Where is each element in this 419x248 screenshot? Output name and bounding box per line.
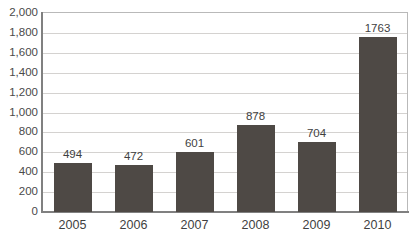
bar-value-label: 472: [103, 151, 164, 163]
x-axis-tick-label: 2006: [103, 218, 164, 233]
y-axis-labels: 2,0001,8001,6001,4001,2001,0008006004002…: [0, 0, 38, 248]
y-axis-tick-label: 1,600: [2, 47, 38, 59]
y-axis-tick-label: 400: [2, 166, 38, 178]
bar: [115, 165, 153, 212]
y-axis-tick-label: 600: [2, 147, 38, 159]
y-axis-tick-label: 1,800: [2, 27, 38, 39]
y-axis-tick-label: 200: [2, 186, 38, 198]
y-axis-tick-label: 0: [2, 206, 38, 218]
bar: [54, 163, 92, 212]
y-axis-tick-label: 1,000: [2, 107, 38, 119]
bar-value-label: 1763: [347, 23, 408, 35]
x-axis-tick-label: 2007: [164, 218, 225, 233]
x-axis-tick-label: 2009: [286, 218, 347, 233]
x-axis-tick-label: 2010: [347, 218, 408, 233]
x-axis-tick-label: 2005: [42, 218, 103, 233]
y-axis-tick-label: 1,200: [2, 87, 38, 99]
y-axis-tick-label: 1,400: [2, 67, 38, 79]
bar: [176, 152, 214, 212]
bar: [359, 37, 397, 212]
bar-value-label: 601: [164, 138, 225, 150]
bar: [298, 142, 336, 212]
bars-layer: 4944726018787041763: [42, 13, 408, 212]
y-axis-tick-label: 800: [2, 127, 38, 139]
bar-chart: 2,0001,8001,6001,4001,2001,0008006004002…: [0, 0, 419, 248]
y-axis-tick-label: 2,000: [2, 7, 38, 19]
x-axis-labels: 200520062007200820092010: [42, 218, 408, 240]
x-axis-tick-label: 2008: [225, 218, 286, 233]
bar-value-label: 704: [286, 128, 347, 140]
bar-value-label: 878: [225, 111, 286, 123]
bar-value-label: 494: [42, 149, 103, 161]
bar: [237, 125, 275, 212]
